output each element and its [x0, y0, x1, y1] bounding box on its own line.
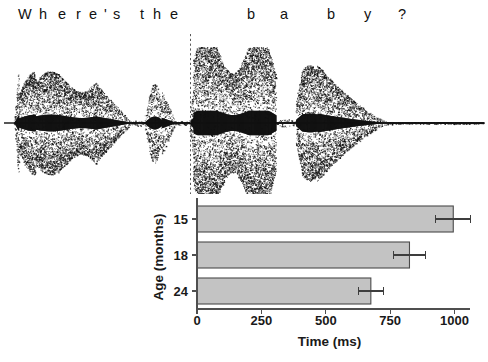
x-tick-label-250: 250: [251, 313, 273, 328]
y-tick-labels-group: 151824: [174, 212, 189, 299]
bar-15-months: [197, 206, 453, 232]
bar-18-months: [197, 242, 409, 268]
sentence-token: ?: [398, 6, 407, 22]
sentence-token: y: [364, 6, 372, 22]
barchart-panel: 02505007501000 151824 Time (ms) Age (mon…: [0, 194, 488, 362]
sentence-token: ': [104, 6, 107, 22]
y-tick-label-24: 24: [174, 284, 189, 299]
y-axis-title: Age (months): [151, 214, 166, 301]
sentence-token: e: [170, 6, 179, 22]
sentence-token: s: [113, 6, 121, 22]
x-tick-label-500: 500: [315, 313, 337, 328]
sentence-token: h: [39, 6, 48, 22]
sentence-token: h: [153, 6, 162, 22]
sentence-caption: Where'sthebaby?: [0, 0, 488, 34]
waveform-panel: [0, 34, 488, 194]
y-tick-label-15: 15: [174, 212, 188, 227]
sentence-token: W: [18, 6, 32, 22]
figure-root: Where'sthebaby? 02505007501000 151824 Ti…: [0, 0, 488, 362]
x-tick-label-0: 0: [193, 313, 200, 328]
sentence-token: e: [58, 6, 67, 22]
sentence-token: b: [247, 6, 256, 22]
bar-24-months: [197, 278, 371, 304]
x-tick-label-1000: 1000: [440, 313, 469, 328]
sentence-token: a: [280, 6, 289, 22]
reaction-time-bar-chart: 02505007501000 151824 Time (ms) Age (mon…: [0, 194, 488, 362]
sentence-token: r: [76, 6, 81, 22]
sentence-token: t: [140, 6, 145, 22]
sentence-token: e: [89, 6, 98, 22]
y-tick-label-18: 18: [174, 248, 188, 263]
speech-waveform-canvas: [0, 34, 488, 194]
x-tick-labels-group: 02505007501000: [193, 313, 469, 328]
x-axis-title: Time (ms): [298, 334, 362, 349]
x-tick-label-750: 750: [379, 313, 401, 328]
sentence-token: b: [327, 6, 336, 22]
